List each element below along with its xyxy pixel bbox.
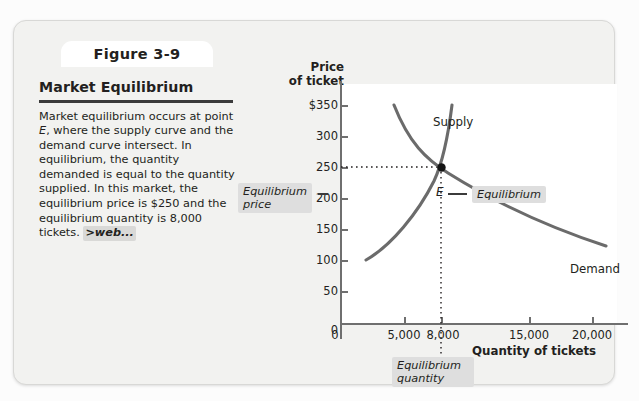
equilibrium-price-callout-line2: price xyxy=(243,198,307,211)
equilibrium-quantity-callout-line2: quantity xyxy=(397,372,469,385)
chart: Price of ticket $350 300 250 200 150 100… xyxy=(276,61,636,381)
equilibrium-quantity-callout-line1: Equilibrium xyxy=(397,359,469,372)
equilibrium-price-leader xyxy=(318,193,328,195)
caption-text-1: Market equilibrium occurs at point xyxy=(39,110,233,123)
figure-title: Market Equilibrium xyxy=(39,79,242,95)
figure-card: Figure 3-9 Market Equilibrium Market equ… xyxy=(13,20,615,385)
title-divider xyxy=(39,100,233,103)
equilibrium-quantity-callout: Equilibrium quantity xyxy=(392,357,474,387)
equilibrium-point-marker xyxy=(437,163,445,171)
web-link-badge[interactable]: >web... xyxy=(83,226,136,241)
figure-text-column: Market Equilibrium Market equilibrium oc… xyxy=(39,79,242,241)
demand-curve xyxy=(394,105,606,246)
equilibrium-label-leader xyxy=(448,193,467,195)
supply-curve-label: Supply xyxy=(433,115,473,129)
curves-svg xyxy=(276,61,636,381)
figure-number-tab: Figure 3-9 xyxy=(61,41,213,67)
figure-caption: Market equilibrium occurs at point E, wh… xyxy=(39,110,242,241)
demand-curve-label: Demand xyxy=(570,262,620,276)
figure-page: Figure 3-9 Market Equilibrium Market equ… xyxy=(0,0,639,401)
equilibrium-callout: Equilibrium xyxy=(472,186,546,203)
equilibrium-point-label: E xyxy=(436,185,444,199)
figure-number-label: Figure 3-9 xyxy=(94,46,181,62)
equilibrium-price-callout-line1: Equilibrium xyxy=(243,185,307,198)
equilibrium-price-callout: Equilibrium price xyxy=(238,183,312,213)
caption-text-2: , where the supply curve and the demand … xyxy=(39,124,235,239)
